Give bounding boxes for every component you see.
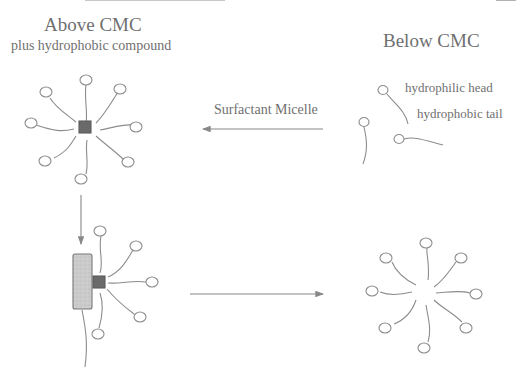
micelle-with-core (25, 75, 142, 184)
empty-micelle (366, 238, 482, 353)
compound-bound-micelle (73, 226, 158, 367)
hydrophobic-compound-core (79, 121, 91, 133)
free-surfactants (359, 86, 443, 165)
hydrophobic-compound (73, 254, 92, 309)
hydrophobic-compound-core (93, 276, 105, 288)
hydrophobic-tail (387, 94, 408, 124)
free-tail (82, 310, 86, 367)
micelle-diagram (0, 0, 516, 380)
